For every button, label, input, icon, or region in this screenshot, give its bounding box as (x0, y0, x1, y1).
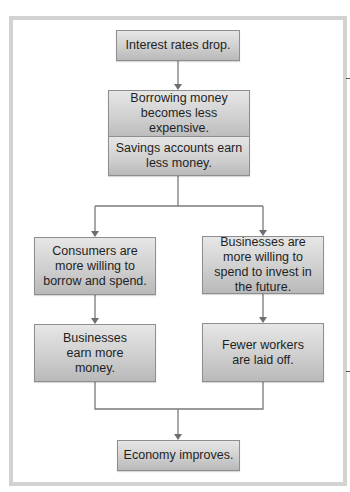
node-label: Fewer workers are laid off. (215, 338, 311, 368)
node-label: Interest rates drop. (126, 38, 231, 53)
node-fewer-layoffs: Fewer workers are laid off. (202, 323, 324, 382)
node-label: Businesses are more willing to spend to … (209, 235, 317, 295)
node-borrowing-cheaper: Borrowing money becomes less expensive. (109, 91, 249, 137)
node-savings-earn-less: Savings accounts earn less money. (109, 137, 249, 175)
node-consumers-borrow-spend: Consumers are more willing to borrow and… (34, 237, 156, 295)
node-businesses-earn-more: Businesses earn more money. (34, 324, 156, 382)
node-economy-improves: Economy improves. (117, 440, 240, 471)
connector-merge (95, 382, 263, 409)
node-label: Savings accounts earn less money. (113, 141, 245, 171)
node-label: Businesses earn more money. (49, 331, 141, 376)
node-label: Economy improves. (124, 448, 234, 463)
node-label: Borrowing money becomes less expensive. (113, 91, 245, 136)
node-borrowing-and-savings: Borrowing money becomes less expensive. … (108, 90, 250, 176)
node-interest-rates-drop: Interest rates drop. (116, 30, 240, 61)
node-businesses-invest: Businesses are more willing to spend to … (202, 236, 324, 294)
node-label: Consumers are more willing to borrow and… (41, 244, 149, 289)
